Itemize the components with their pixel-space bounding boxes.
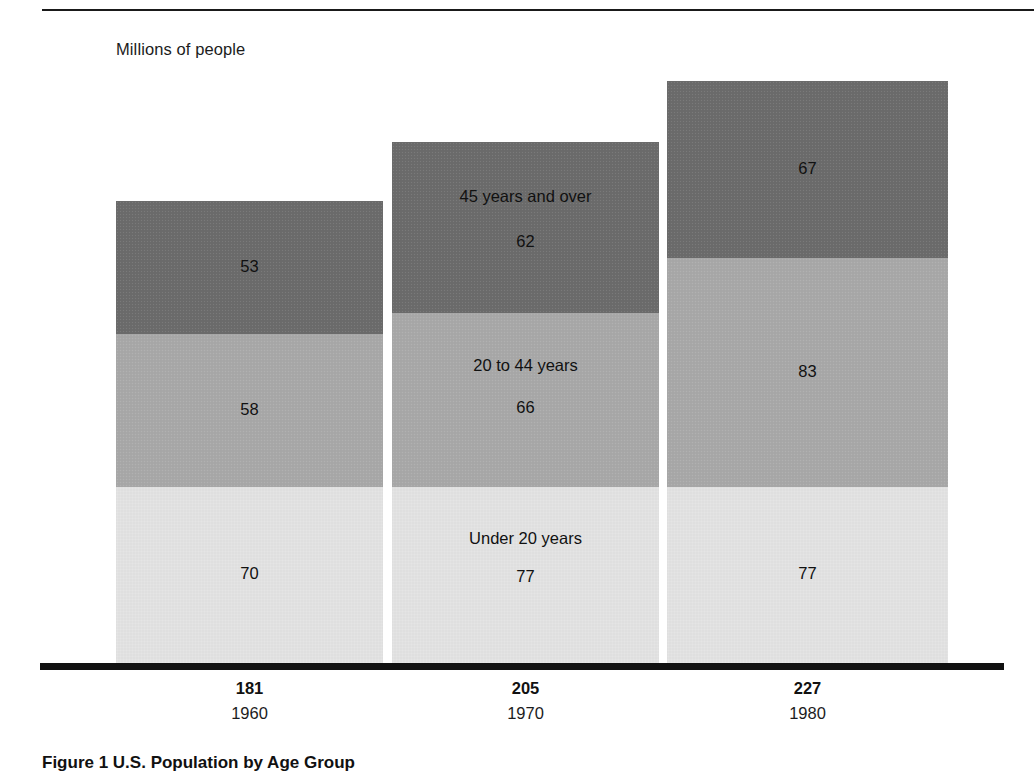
bar-1980[interactable]: 678377 xyxy=(667,81,948,663)
segment-value-1960-over45: 53 xyxy=(116,257,383,276)
bar-1970[interactable]: 45 years and over6220 to 44 years66Under… xyxy=(392,142,659,663)
tick-group-1970: 2051970 xyxy=(392,676,659,726)
bar-segment-1960-over45[interactable]: 53 xyxy=(116,201,383,334)
bar-segment-1960-under20[interactable]: 70 xyxy=(116,487,383,663)
bar-segment-1980-under20[interactable]: 77 xyxy=(667,487,948,663)
x-axis-baseline xyxy=(40,663,1004,670)
stacked-bar-plot-area: 53587045 years and over6220 to 44 years6… xyxy=(0,0,1034,772)
tick-total-1960: 181 xyxy=(116,676,383,701)
segment-series-label-under20: Under 20 years xyxy=(392,529,659,548)
segment-value-1970-under20: 77 xyxy=(392,567,659,586)
bar-segment-1970-over45[interactable]: 45 years and over62 xyxy=(392,142,659,313)
bar-1960[interactable]: 535870 xyxy=(116,201,383,663)
segment-value-1960-under20: 70 xyxy=(116,564,383,583)
segment-value-1980-under20: 77 xyxy=(667,564,948,583)
tick-total-1970: 205 xyxy=(392,676,659,701)
segment-value-1980-over45: 67 xyxy=(667,159,948,178)
figure-caption: Figure 1 U.S. Population by Age Group xyxy=(42,753,355,772)
segment-series-label-over45: 45 years and over xyxy=(392,187,659,206)
bar-segment-1970-mid2044[interactable]: 20 to 44 years66 xyxy=(392,313,659,487)
segment-value-1980-mid2044: 83 xyxy=(667,362,948,381)
segment-value-1970-over45: 62 xyxy=(392,232,659,251)
bar-segment-1980-mid2044[interactable]: 83 xyxy=(667,258,948,487)
tick-year-1970: 1970 xyxy=(392,701,659,726)
tick-total-1980: 227 xyxy=(667,676,948,701)
bar-segment-1980-over45[interactable]: 67 xyxy=(667,81,948,258)
segment-value-1970-mid2044: 66 xyxy=(392,398,659,417)
tick-group-1960: 1811960 xyxy=(116,676,383,726)
figure-container: Millions of people 53587045 years and ov… xyxy=(0,0,1034,772)
bar-segment-1970-under20[interactable]: Under 20 years77 xyxy=(392,487,659,663)
tick-year-1960: 1960 xyxy=(116,701,383,726)
segment-value-1960-mid2044: 58 xyxy=(116,400,383,419)
tick-group-1980: 2271980 xyxy=(667,676,948,726)
tick-year-1980: 1980 xyxy=(667,701,948,726)
bar-segment-1960-mid2044[interactable]: 58 xyxy=(116,334,383,487)
segment-series-label-mid2044: 20 to 44 years xyxy=(392,356,659,375)
